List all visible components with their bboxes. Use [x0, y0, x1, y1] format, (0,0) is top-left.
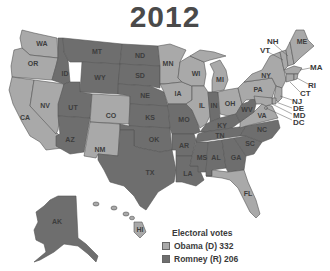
svg-text:CA: CA — [20, 114, 30, 121]
svg-text:DC: DC — [293, 118, 305, 127]
svg-text:MO: MO — [178, 116, 190, 123]
svg-text:AL: AL — [211, 154, 221, 161]
svg-text:AK: AK — [52, 218, 62, 225]
svg-text:VA: VA — [257, 112, 266, 119]
state-de[interactable] — [272, 98, 276, 104]
svg-text:NE: NE — [140, 92, 150, 99]
svg-text:WA: WA — [36, 40, 47, 47]
state-ri[interactable] — [294, 74, 298, 80]
svg-text:TN: TN — [215, 132, 224, 139]
svg-text:MS: MS — [197, 154, 208, 161]
svg-text:NV: NV — [40, 102, 50, 109]
svg-text:TX: TX — [146, 169, 155, 176]
svg-text:MN: MN — [163, 60, 174, 67]
svg-text:OR: OR — [28, 60, 39, 67]
legend-label-obama: Obama (D) 332 — [174, 241, 234, 251]
svg-text:WV: WV — [241, 106, 253, 113]
svg-text:MT: MT — [92, 48, 103, 55]
state-md[interactable] — [254, 96, 272, 106]
svg-text:IN: IN — [211, 102, 218, 109]
svg-text:IA: IA — [175, 90, 182, 97]
svg-text:LA: LA — [183, 170, 192, 177]
obama-swatch — [162, 242, 170, 250]
legend-heading: Electoral votes — [172, 228, 238, 238]
svg-text:NM: NM — [95, 146, 106, 153]
state-co[interactable] — [90, 94, 130, 124]
svg-text:UT: UT — [68, 104, 78, 111]
svg-text:ME: ME — [297, 38, 308, 45]
svg-text:MA: MA — [310, 63, 323, 72]
svg-text:AR: AR — [179, 142, 189, 149]
svg-text:HI: HI — [137, 226, 144, 233]
svg-text:CO: CO — [106, 112, 117, 119]
svg-text:WY: WY — [94, 74, 106, 81]
svg-text:SD: SD — [135, 72, 145, 79]
svg-text:VT: VT — [260, 46, 270, 55]
svg-text:AZ: AZ — [65, 136, 75, 143]
legend-label-romney: Romney (R) 206 — [174, 254, 238, 264]
state-me[interactable] — [290, 30, 314, 64]
state-ak[interactable] — [34, 196, 98, 262]
svg-text:SC: SC — [245, 140, 255, 147]
svg-text:PA: PA — [253, 86, 262, 93]
state-az[interactable] — [56, 116, 90, 154]
svg-text:ID: ID — [62, 70, 69, 77]
legend-item-romney: Romney (R) 206 — [162, 254, 238, 264]
state-ct[interactable] — [286, 74, 294, 82]
svg-text:MI: MI — [216, 76, 224, 83]
svg-text:OH: OH — [225, 100, 236, 107]
svg-text:NH: NH — [267, 37, 279, 46]
legend-item-obama: Obama (D) 332 — [162, 241, 238, 251]
svg-text:GA: GA — [231, 154, 242, 161]
svg-text:WI: WI — [192, 70, 201, 77]
svg-text:NY: NY — [261, 72, 271, 79]
svg-text:NC: NC — [257, 126, 267, 133]
svg-text:KY: KY — [217, 122, 227, 129]
svg-text:OK: OK — [149, 136, 160, 143]
svg-text:FL: FL — [244, 190, 253, 197]
legend: Electoral votes Obama (D) 332 Romney (R)… — [162, 228, 238, 267]
svg-text:ND: ND — [135, 52, 145, 59]
svg-text:KS: KS — [145, 114, 155, 121]
romney-swatch — [162, 255, 170, 263]
svg-text:IL: IL — [199, 102, 206, 109]
